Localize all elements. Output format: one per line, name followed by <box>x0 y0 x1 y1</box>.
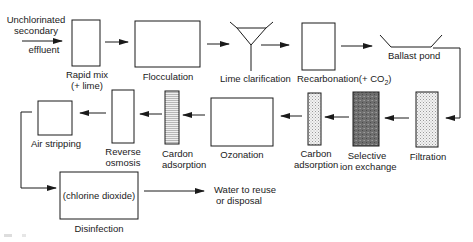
input-label-effluent: effluent <box>24 44 64 55</box>
flocculation-label: Flocculation <box>135 71 201 82</box>
disinfection-inner-label: (chlorine dioxide) <box>60 190 138 201</box>
reverse-osmosis-box <box>112 90 134 143</box>
rapid-mix-label: Rapid mix (+ lime) <box>62 69 112 91</box>
cropped-caption-remnant <box>4 234 44 237</box>
ballast-pond-label: Ballast pond <box>388 50 438 61</box>
output-label: Water to reuse or disposal <box>214 184 284 206</box>
ion-exchange-column <box>353 92 379 146</box>
carbon-adsorption-column-1 <box>308 93 321 145</box>
filtration-column <box>416 92 438 147</box>
reverse-osmosis-label: Reverse osmosis <box>101 146 145 168</box>
rapid-mix-box <box>72 20 100 66</box>
carbon-adsorption-1-label: Carbon adsorption <box>294 148 338 170</box>
recarbonation-box <box>302 23 335 70</box>
ozonation-box <box>211 98 273 146</box>
disinfection-label: Disinfection <box>60 223 138 234</box>
lime-clarification-label: Lime clarification <box>220 73 290 84</box>
ozonation-label: Ozonation <box>211 149 273 160</box>
flocculation-box <box>135 21 200 67</box>
filtration-label: Filtration <box>405 151 451 162</box>
ballast-pond-symbol <box>380 35 442 47</box>
carbon-adsorption-2-label: Cardon adsorption <box>162 148 206 170</box>
air-stripping-label: Air stripping <box>28 138 84 149</box>
lime-clarifier-symbol <box>229 22 273 71</box>
recarbonation-label: Recarbonation(+ CO2) <box>297 73 379 88</box>
air-stripping-box <box>38 101 72 135</box>
ion-exchange-label: Selective ion exchange <box>340 150 394 172</box>
input-label: Unchlorinated secondary <box>4 14 68 36</box>
carbon-adsorption-column-2 <box>165 91 179 144</box>
